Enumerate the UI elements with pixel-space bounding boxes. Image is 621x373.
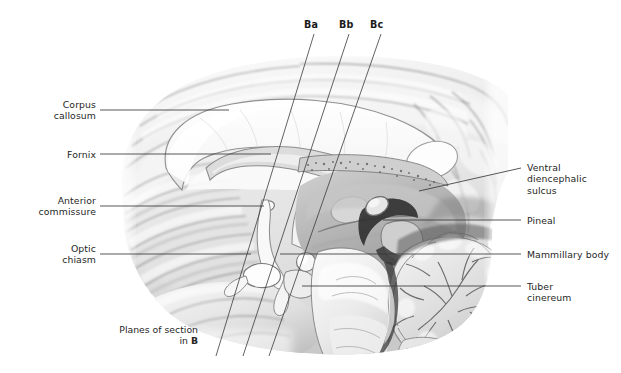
- label-optic-chiasm: Optic chiasm: [28, 243, 96, 266]
- caption-line-1: Planes of section: [119, 324, 198, 335]
- label-tuber-cinereum: Tuber cinereum: [527, 281, 617, 304]
- label-plane-bb: Bb: [339, 19, 354, 30]
- label-fornix: Fornix: [28, 149, 96, 160]
- label-ventral-diencephalic-sulcus: Ventral diencephalic sulcus: [527, 162, 617, 196]
- label-mammillary-body: Mammillary body: [527, 249, 621, 260]
- label-plane-bc: Bc: [370, 19, 383, 30]
- label-pineal: Pineal: [527, 215, 617, 226]
- planes-of-section-caption: Planes of sectionin B: [104, 324, 198, 347]
- label-anterior-commissure: Anterior commissure: [14, 195, 96, 218]
- label-plane-ba: Ba: [304, 19, 318, 30]
- optic-chiasm-shape: [244, 264, 281, 288]
- caption-line-2-prefix: in: [179, 335, 190, 346]
- label-corpus-callosum: Corpus callosum: [28, 99, 96, 122]
- cerebellar-tonsil: [398, 337, 470, 373]
- caption-panel-ref: B: [191, 335, 198, 346]
- figure-canvas: Corpus callosumFornixAnterior commissure…: [0, 0, 621, 373]
